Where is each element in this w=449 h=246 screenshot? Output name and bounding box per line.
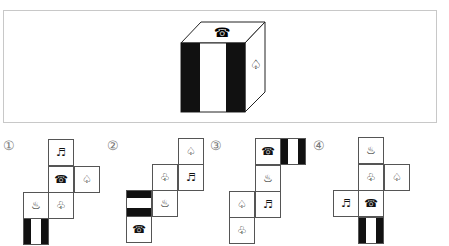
option-4-label: ④: [313, 139, 325, 153]
spade-icon: ♤: [74, 166, 100, 193]
music-icon: ♬: [333, 190, 359, 217]
option-3-label: ③: [210, 139, 222, 153]
club-icon: ♧: [48, 192, 74, 219]
phone-icon: ☎: [126, 216, 152, 243]
phone-icon: ☎: [255, 138, 281, 165]
fountain-icon: ♨: [358, 137, 384, 164]
music-icon: ♬: [178, 164, 204, 191]
cube-top-phone-icon: ☎: [214, 25, 230, 40]
music-icon: ♬: [255, 191, 281, 218]
phone-icon: ☎: [48, 166, 74, 193]
music-icon: ♬: [48, 139, 74, 166]
fountain-icon: ♨: [23, 192, 49, 219]
vertical-stripes-face: [358, 217, 384, 244]
option-1-label: ①: [3, 139, 15, 153]
spade-icon: ♤: [178, 138, 204, 165]
horizontal-stripes-face: [126, 190, 152, 217]
club-icon: ♧: [152, 164, 178, 191]
phone-icon: ☎: [358, 190, 384, 217]
cube-figure: [0, 0, 449, 130]
club-icon: ♧: [358, 164, 384, 191]
option-2-label: ②: [107, 139, 119, 153]
vertical-stripes-face: [280, 138, 306, 165]
vertical-stripes-face: [23, 218, 49, 245]
fountain-icon: ♨: [152, 190, 178, 217]
fountain-icon: ♨: [255, 165, 281, 192]
cube-right-spade-icon: ♤: [250, 57, 262, 72]
club-icon: ♧: [229, 217, 255, 244]
spade-icon: ♤: [384, 164, 410, 191]
spade-icon: ♤: [229, 191, 255, 218]
